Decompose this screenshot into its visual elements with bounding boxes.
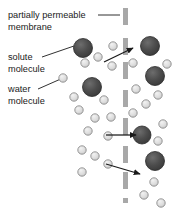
- water-molecule: [91, 114, 99, 122]
- membrane-label-line2: membrane: [8, 22, 52, 32]
- water-molecule: [94, 53, 102, 61]
- water-molecule: [150, 178, 158, 186]
- water-molecule: [81, 59, 89, 67]
- water-molecule: [59, 74, 67, 82]
- water-molecule: [142, 100, 150, 108]
- water-molecule: [78, 168, 86, 176]
- solute-label-line1: solute: [8, 52, 33, 62]
- osmosis-diagram: partially permeable membrane solute mole…: [0, 0, 181, 213]
- membrane-dash: [123, 172, 128, 189]
- membrane-dash: [123, 62, 128, 79]
- water-molecule: [154, 137, 162, 145]
- water-label-line1: water: [7, 84, 30, 94]
- solute-molecule: [146, 152, 165, 171]
- water-molecule: [107, 113, 115, 121]
- water-molecule: [108, 62, 116, 70]
- water-label-line2: molecule: [8, 96, 45, 106]
- solute-molecule: [83, 78, 102, 97]
- membrane-dash: [123, 90, 128, 107]
- water-molecule: [159, 120, 167, 128]
- water-molecule: [100, 96, 108, 104]
- water-molecule: [132, 85, 140, 93]
- membrane-dash: [123, 118, 128, 135]
- solute-molecule: [74, 39, 93, 58]
- water-molecule: [84, 127, 92, 135]
- solute-label-line2: molecule: [8, 64, 45, 74]
- water-molecule: [109, 42, 117, 50]
- water-molecule: [78, 146, 86, 154]
- osmosis-diagram-canvas: partially permeable membrane solute mole…: [0, 0, 181, 213]
- membrane-dash: [123, 146, 128, 163]
- solute-molecule: [146, 67, 165, 86]
- membrane-dash: [123, 8, 128, 25]
- water-molecule: [163, 60, 171, 68]
- water-molecule: [129, 59, 137, 67]
- water-molecule: [140, 191, 148, 199]
- water-molecule: [91, 152, 99, 160]
- solute-molecule: [141, 37, 160, 56]
- water-molecule: [129, 109, 137, 117]
- water-molecule: [104, 132, 112, 140]
- water-molecule: [75, 106, 83, 114]
- membrane-dash: [123, 198, 128, 203]
- water-molecule: [70, 93, 78, 101]
- water-molecule: [157, 199, 165, 207]
- water-molecule: [154, 91, 162, 99]
- membrane-label-line1: partially permeable: [8, 10, 86, 20]
